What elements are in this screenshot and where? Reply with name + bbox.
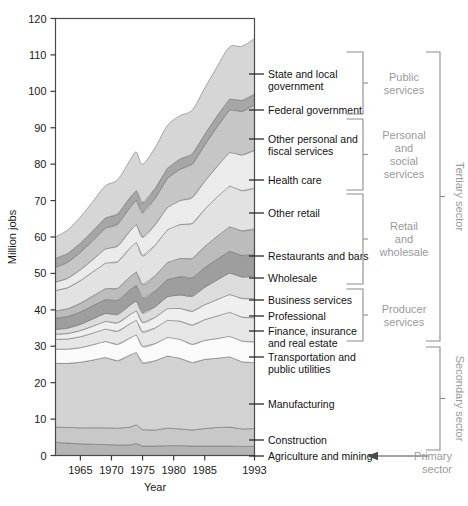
series-label-wholesale: Wholesale [268,272,317,284]
stacked-area-chart: 0102030405060708090100110120 19651970197… [0,0,468,506]
y-tick-label: 40 [34,304,46,316]
series-label-line: government [268,80,324,92]
x-tick-label: 1970 [99,464,123,476]
series-label-line: Health care [268,174,322,186]
y-tick-label: 90 [34,122,46,134]
series-label-professional: Professional [268,310,326,322]
y-tick-label: 120 [28,13,46,25]
y-tick-label: 60 [34,231,46,243]
group-label-personal-and-social-services: Personal [382,129,425,141]
series-label-other-retail: Other retail [268,207,320,219]
series-label-construction: Construction [268,434,327,446]
y-tick-label: 70 [34,195,46,207]
group-label-producer-services: Producer [382,303,427,315]
series-label-line: Business services [268,294,352,306]
group-label-primary-sector: Primary [414,450,452,462]
x-tick-label: 1985 [193,464,217,476]
group-label-personal-and-social-services: and [395,142,413,154]
series-label-line: and real estate [268,337,338,349]
y-tick-label: 100 [28,85,46,97]
y-tick-label: 30 [34,340,46,352]
series-label-line: Wholesale [268,272,317,284]
x-tick-label: 1993 [242,464,266,476]
series-label-line: Restaurants and bars [268,250,368,262]
group-label-secondary-sector: Secondary sector [454,356,466,442]
series-label-line: Other retail [268,207,320,219]
group-label-primary-sector: sector [422,463,452,475]
area-band-manufacturing [56,352,255,430]
group-label-producer-services: services [384,316,425,328]
group-label-tertiary-sector: Tertiary sector [454,162,466,231]
group-label-personal-and-social-services: social [390,155,418,167]
series-label-line: Finance, insurance [268,325,357,337]
y-tick-label: 20 [34,377,46,389]
series-label-line: Transportation and [268,351,356,363]
series-label-line: fiscal services [268,145,333,157]
series-label-line: Manufacturing [268,398,335,410]
group-label-retail-and-wholesale: and [395,233,413,245]
x-axis-title: Year [144,481,167,493]
group-label-public-services: Public [389,71,419,83]
series-label-health-care: Health care [268,174,322,186]
x-tick-label: 1965 [68,464,92,476]
series-label-manufacturing: Manufacturing [268,398,335,410]
series-label-line: public utilities [268,363,330,375]
group-label-public-services: services [384,84,425,96]
group-label-retail-and-wholesale: Retail [390,220,418,232]
group-label-personal-and-social-services: services [384,168,425,180]
y-tick-label: 80 [34,158,46,170]
y-tick-label: 0 [40,450,46,462]
x-tick-label: 1980 [161,464,185,476]
y-tick-label: 50 [34,267,46,279]
x-tick-label: 1975 [130,464,154,476]
chart-figure: 0102030405060708090100110120 19651970197… [0,0,468,506]
series-label-line: Agriculture and mining [268,450,373,462]
y-tick-label: 110 [29,49,47,61]
y-axis-title: Million jobs [6,209,18,264]
series-label-agriculture-and-mining: Agriculture and mining [268,450,373,462]
y-tick-label: 10 [34,413,46,425]
series-label-restaurants-and-bars: Restaurants and bars [268,250,368,262]
series-label-line: Construction [268,434,327,446]
series-label-line: Other personal and [268,133,358,145]
series-label-line: State and local [268,68,337,80]
series-label-line: Professional [268,310,326,322]
group-label-retail-and-wholesale: wholesale [379,246,429,258]
series-label-business-services: Business services [268,294,352,306]
